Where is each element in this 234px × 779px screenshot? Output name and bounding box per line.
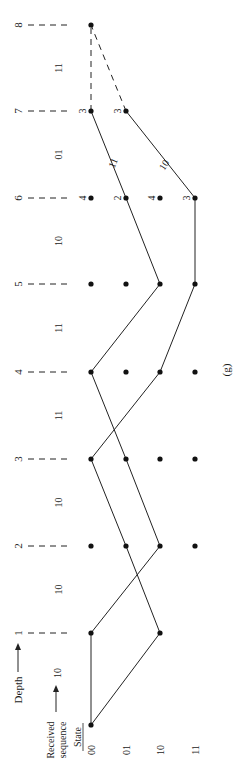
received-symbol: 10 bbox=[53, 236, 64, 246]
trellis-node bbox=[88, 195, 93, 200]
trellis-node bbox=[88, 369, 93, 374]
trellis-node bbox=[123, 543, 128, 548]
figure-caption: (g) bbox=[220, 363, 233, 376]
path-metric: 4 bbox=[77, 196, 88, 201]
survivor-branch bbox=[126, 459, 160, 546]
trellis-labels: 1234567810101111100111DepthReceivedseque… bbox=[12, 22, 233, 759]
trellis-diagram: 1234567810101111100111DepthReceivedseque… bbox=[0, 0, 234, 779]
trellis-node bbox=[157, 630, 162, 635]
trellis-nodes bbox=[88, 22, 197, 727]
received-symbol: 10 bbox=[52, 668, 63, 678]
received-symbol: 11 bbox=[53, 63, 64, 73]
survivor-branch bbox=[91, 546, 160, 633]
trellis-node bbox=[157, 543, 162, 548]
received-symbol: 10 bbox=[53, 585, 64, 595]
survivor-branch bbox=[91, 633, 160, 725]
depth-number: 2 bbox=[12, 543, 24, 549]
trellis-node bbox=[123, 281, 128, 286]
received-label: sequence bbox=[57, 721, 68, 758]
trellis-edges bbox=[91, 25, 195, 725]
depth-number: 8 bbox=[12, 22, 24, 28]
trellis-node bbox=[192, 281, 197, 286]
path-metric: 3 bbox=[77, 109, 88, 114]
received-symbol: 11 bbox=[53, 411, 64, 421]
survivor-branch bbox=[91, 372, 126, 459]
survivor-branch bbox=[126, 198, 160, 284]
trellis-node bbox=[123, 369, 128, 374]
trellis-node bbox=[88, 543, 93, 548]
depth-arrowhead-icon bbox=[15, 643, 21, 650]
depth-number: 3 bbox=[12, 456, 24, 462]
received-symbol: 11 bbox=[53, 323, 64, 333]
state-label-00: 00 bbox=[86, 745, 97, 755]
trellis-node bbox=[88, 22, 93, 27]
depth-number: 7 bbox=[12, 108, 24, 114]
tentative-branch bbox=[91, 25, 126, 111]
received-symbol: 10 bbox=[53, 498, 64, 508]
depth-number: 6 bbox=[12, 195, 24, 201]
state-label-01: 01 bbox=[121, 745, 132, 755]
path-metric: 2 bbox=[112, 196, 123, 201]
trellis-node bbox=[157, 281, 162, 286]
state-label-10: 10 bbox=[155, 745, 166, 755]
trellis-node bbox=[88, 281, 93, 286]
survivor-branch bbox=[126, 546, 160, 633]
depth-number: 1 bbox=[12, 630, 24, 636]
trellis-node bbox=[192, 195, 197, 200]
trellis-node bbox=[88, 456, 93, 461]
survivor-branch bbox=[91, 111, 126, 198]
trellis-node bbox=[123, 456, 128, 461]
depth-guides bbox=[28, 25, 72, 633]
depth-axis-label: Depth bbox=[12, 676, 24, 703]
survivor-branch bbox=[160, 284, 195, 372]
trellis-node bbox=[192, 369, 197, 374]
depth-number: 5 bbox=[12, 281, 24, 287]
trellis-node bbox=[88, 630, 93, 635]
survivor-branch bbox=[126, 111, 195, 198]
received-label: Received bbox=[45, 721, 56, 758]
path-metric: 3 bbox=[112, 109, 123, 114]
trellis-node bbox=[88, 108, 93, 113]
trellis-node bbox=[192, 543, 197, 548]
trellis-node bbox=[157, 195, 162, 200]
trellis-node bbox=[157, 369, 162, 374]
received-symbol: 01 bbox=[53, 150, 64, 160]
branch-label: 11 bbox=[106, 156, 120, 169]
trellis-node bbox=[157, 456, 162, 461]
survivor-branch bbox=[91, 459, 126, 546]
survivor-branch bbox=[91, 284, 160, 372]
state-label-11: 11 bbox=[190, 745, 201, 755]
trellis-node bbox=[88, 722, 93, 727]
depth-number: 4 bbox=[12, 369, 24, 375]
branch-label: 10 bbox=[157, 158, 172, 172]
trellis-node bbox=[192, 456, 197, 461]
path-metric: 3 bbox=[181, 196, 192, 201]
received-arrowhead-icon bbox=[53, 685, 59, 692]
survivor-branch bbox=[91, 372, 160, 459]
path-metric: 4 bbox=[146, 196, 157, 201]
trellis-node bbox=[123, 108, 128, 113]
state-label: State bbox=[72, 726, 83, 747]
trellis-node bbox=[123, 195, 128, 200]
